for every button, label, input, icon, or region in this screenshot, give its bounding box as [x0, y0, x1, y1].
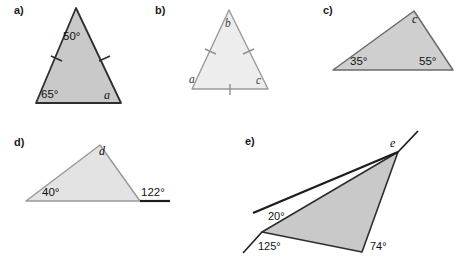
figure-b-label: b)	[155, 4, 166, 16]
triangle-e-shape	[262, 152, 398, 252]
angle-a-bottom-left: 65°	[41, 88, 58, 100]
angle-e-top: e	[390, 136, 396, 150]
figure-a: a) 50° 65° a	[14, 4, 121, 103]
figure-d: d) d 40° 122°	[14, 136, 170, 201]
figure-c-label: c)	[323, 4, 333, 16]
worksheet-page: a) 50° 65° a b) b a c c) c 35° 55°	[0, 0, 460, 259]
angle-a-unknown: a	[104, 88, 110, 102]
figure-a-label: a)	[14, 4, 24, 16]
right-side-extension-line-e	[398, 131, 418, 152]
angle-e-exterior-lower: 125°	[258, 240, 281, 252]
figure-d-label: d)	[14, 136, 25, 148]
figure-e: e) e 20° 125° 74°	[243, 131, 418, 253]
angle-c-bottom-right: 55°	[419, 55, 436, 67]
angle-c-bottom-left: 35°	[350, 55, 367, 67]
angle-b-apex: b	[225, 17, 231, 29]
figure-e-label: e)	[245, 135, 255, 147]
angle-d-apex: d	[99, 144, 106, 158]
angle-a-apex: 50°	[63, 30, 80, 42]
angle-c-apex: c	[412, 12, 418, 26]
angle-d-exterior: 122°	[141, 186, 165, 198]
angle-d-bottom-left: 40°	[42, 186, 59, 198]
angle-e-exterior-upper: 20°	[268, 210, 285, 222]
figure-c: c) c 35° 55°	[323, 4, 453, 70]
figure-b: b) b a c	[155, 4, 268, 95]
geometry-figures-canvas: a) 50° 65° a b) b a c c) c 35° 55°	[0, 0, 460, 259]
angle-e-bottom-right: 74°	[370, 240, 387, 252]
angle-b-bottom-left: a	[189, 73, 195, 85]
angle-b-bottom-right: c	[256, 74, 261, 86]
